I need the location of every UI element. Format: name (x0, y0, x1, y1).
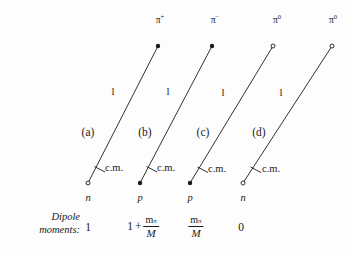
moment-integer-a: 1 (85, 222, 91, 234)
pion-marker-c (271, 44, 275, 48)
separation-line-d (243, 46, 332, 183)
pion-label-c: π0 (273, 14, 281, 26)
panel-label-b: (b) (138, 127, 151, 139)
moment-fraction-c: mπ M (188, 215, 203, 239)
pion-charge-a: + (161, 13, 165, 20)
dipole-moments-caption: Dipole moments: (12, 210, 80, 236)
nucleon-marker-a (86, 181, 90, 185)
nucleon-marker-d (241, 181, 245, 185)
numerator-symbol-c: m (190, 214, 198, 225)
pion-label-a: π+ (156, 14, 164, 26)
dipole-moment-value-a: 1 (85, 222, 91, 234)
pion-charge-b: − (216, 13, 220, 20)
angular-momentum-label-c: l (221, 87, 224, 98)
moment-fraction-b: mπ M (143, 215, 158, 239)
column-b-geometry (138, 44, 214, 185)
pion-charge-c: 0 (278, 13, 281, 20)
caption-line-1: Dipole (12, 210, 80, 223)
column-a-geometry (86, 44, 160, 185)
angular-momentum-label-b: l (166, 86, 169, 97)
column-d-geometry (241, 44, 334, 185)
moment-integer-d: 0 (238, 222, 244, 234)
nucleon-marker-b (138, 181, 142, 185)
pion-marker-b (210, 44, 214, 48)
moment-denominator-c: M (189, 227, 202, 239)
moment-leading-b: 1 (127, 221, 133, 233)
moment-denominator-b: M (145, 227, 158, 239)
dipole-moment-value-b: 1 + mπ M (127, 215, 159, 239)
nucleon-marker-c (188, 181, 192, 185)
pion-label-b: π− (211, 14, 219, 26)
cm-label-c: c.m. (208, 164, 226, 175)
angular-momentum-label-a: l (111, 86, 114, 97)
cm-label-b: c.m. (157, 163, 175, 174)
separation-line-b (140, 46, 212, 183)
cm-tick-b (147, 167, 158, 173)
cm-tick-a (94, 167, 105, 173)
nucleon-label-a: n (85, 193, 90, 204)
pion-label-d: π0 (329, 14, 337, 26)
panel-label-a: (a) (82, 127, 95, 139)
nucleon-label-d: n (240, 193, 245, 204)
cm-label-d: c.m. (262, 164, 280, 175)
dipole-moment-value-c: mπ M (188, 215, 203, 239)
pion-marker-a (156, 44, 160, 48)
moment-numerator-c: mπ (188, 215, 203, 226)
pion-charge-d: 0 (334, 13, 337, 20)
separation-line-c (190, 46, 273, 183)
angular-momentum-label-d: l (279, 87, 282, 98)
pion-marker-d (330, 44, 334, 48)
dipole-moment-value-d: 0 (238, 222, 244, 234)
panel-label-d: (d) (252, 127, 265, 139)
numerator-subscript-b: π (153, 217, 157, 225)
numerator-subscript-c: π (198, 217, 202, 225)
cm-label-a: c.m. (105, 163, 123, 174)
nucleon-label-c: p (187, 193, 192, 204)
numerator-symbol-b: m (145, 214, 153, 225)
panel-label-c: (c) (197, 127, 210, 139)
nucleon-label-b: p (137, 193, 142, 204)
pion-nucleon-dipole-figure: π+ π− π0 π0 l l l l (a) (b) (c) (d) c.m.… (0, 0, 352, 254)
caption-line-2: moments: (12, 223, 80, 236)
moment-numerator-b: mπ (143, 215, 158, 226)
cm-tick-c (198, 167, 209, 173)
moment-plus-operator-b: + (135, 221, 142, 233)
